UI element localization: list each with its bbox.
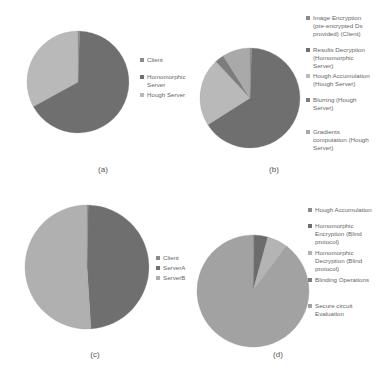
legend-swatch	[308, 251, 312, 255]
legend-item: Hough Accumulation	[308, 206, 374, 214]
legend-label: Gradients computation (Hough Server)	[313, 128, 370, 152]
legend-swatch	[308, 304, 312, 308]
legend-item: Blinding Operations	[308, 276, 374, 284]
pie-slice	[25, 205, 91, 329]
legend-item: Gradients computation (Hough Server)	[306, 128, 370, 152]
legend-item: ServerA	[156, 264, 190, 272]
legend-swatch	[306, 48, 310, 52]
legend-label: Homomorphic Decryption (Blind protocol)	[315, 249, 374, 273]
legend-swatch	[308, 208, 312, 212]
caption-d: (d)	[263, 350, 293, 359]
legend-label: ServerA	[163, 264, 185, 272]
legend-b: Image Encryption (pre-encrypted Ds provi…	[306, 14, 370, 156]
legend-swatch	[306, 98, 310, 102]
legend-c: Client ServerA ServerB	[156, 254, 190, 286]
legend-d: Hough Accumulation Homomorphic Encryptio…	[308, 206, 374, 322]
legend-label: Hough Accumulation	[315, 206, 372, 214]
caption-b: (b)	[259, 165, 289, 174]
legend-swatch	[156, 276, 160, 280]
legend-swatch	[306, 74, 310, 78]
legend-item: Blurring (Hough Server)	[306, 96, 370, 112]
legend-label: ServerB	[163, 274, 185, 282]
legend-swatch	[156, 256, 160, 260]
legend-item: ServerB	[156, 274, 190, 282]
legend-item: Homomorphic Decryption (Blind protocol)	[308, 249, 374, 273]
legend-item: Results Decryption (Homomorphic Server)	[306, 46, 370, 70]
pie-chart-c	[0, 0, 191, 380]
pie-slice	[87, 205, 149, 329]
legend-item: Client	[156, 254, 190, 262]
legend-item: Secure circuit Evaluation	[308, 302, 374, 318]
legend-swatch	[306, 130, 310, 134]
legend-swatch	[308, 278, 312, 282]
legend-label: Homomorphic Encryption (Blind protocol)	[315, 222, 374, 246]
legend-swatch	[306, 16, 310, 20]
legend-label: Hough Accumulation (Hough Server)	[313, 72, 370, 88]
legend-swatch	[308, 224, 312, 228]
legend-label: Image Encryption (pre-encrypted Ds provi…	[313, 14, 370, 38]
legend-label: Client	[163, 254, 179, 262]
legend-label: Blurring (Hough Server)	[313, 96, 370, 112]
legend-label: Results Decryption (Homomorphic Server)	[313, 46, 370, 70]
legend-label: Blinding Operations	[315, 276, 369, 284]
pie-slice	[197, 235, 309, 347]
legend-item: Homomorphic Encryption (Blind protocol)	[308, 222, 374, 246]
legend-item: Hough Accumulation (Hough Server)	[306, 72, 370, 88]
legend-swatch	[156, 266, 160, 270]
legend-label: Secure circuit Evaluation	[315, 302, 374, 318]
legend-item: Image Encryption (pre-encrypted Ds provi…	[306, 14, 370, 38]
caption-c: (c)	[80, 350, 110, 359]
